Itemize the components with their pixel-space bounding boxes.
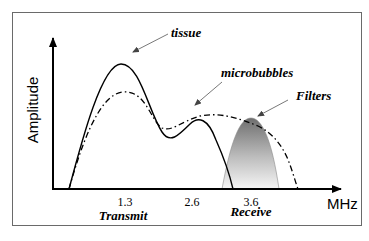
microbubbles-pointer-arrow <box>195 82 222 105</box>
tissue-annotation: tissue <box>171 25 202 40</box>
x-tick-1-3: 1.3 <box>118 195 133 209</box>
tissue-curve <box>69 64 233 189</box>
x-tick-2-6: 2.6 <box>185 195 200 209</box>
filters-annotation: Filters <box>295 88 331 103</box>
spectrum-diagram: Amplitude MHz 1.3 2.6 3.6 Transmit Recei… <box>0 0 369 241</box>
tissue-pointer-arrow <box>133 34 168 52</box>
transmit-label: Transmit <box>99 208 148 223</box>
microbubbles-annotation: microbubbles <box>221 65 293 80</box>
filters-pointer-arrow <box>258 100 288 116</box>
y-axis-label: Amplitude <box>24 77 41 144</box>
receive-label: Receive <box>229 204 271 219</box>
x-axis-unit-label: MHz <box>327 195 358 212</box>
